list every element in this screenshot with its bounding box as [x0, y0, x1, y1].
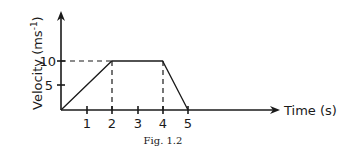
velocity-series-line [61, 61, 188, 110]
x-tick-label-3: 3 [134, 116, 142, 131]
x-axis-label: Time (s) [283, 103, 337, 118]
y-axis-label-superscript: -1 [29, 21, 39, 30]
x-tick-label-5: 5 [184, 116, 192, 131]
x-tick-label-4: 4 [159, 116, 167, 131]
y-axis-label-close: ) [30, 16, 45, 21]
y-axis-label-main: Velocity (ms [30, 30, 45, 110]
x-tick-label-2: 2 [108, 116, 116, 131]
figure-caption: Fig. 1.2 [144, 135, 183, 146]
x-tick-label-1: 1 [83, 116, 91, 131]
velocity-time-graph: 5 10 1 2 3 4 5 Time (s) Velocity (ms-1) … [0, 0, 355, 157]
y-tick-label-5: 5 [45, 78, 53, 93]
y-axis-label: Velocity (ms-1) [29, 16, 45, 110]
